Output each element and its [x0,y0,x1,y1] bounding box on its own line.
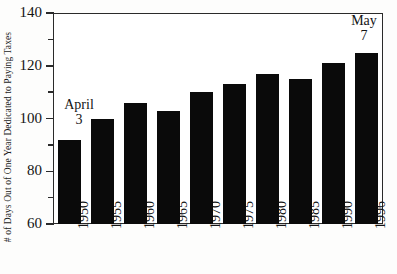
y-tick-minor [48,39,54,40]
y-tick-major [46,12,54,14]
bar-1960 [124,103,146,224]
y-tick-major [46,118,54,120]
annotation-april-3-line1: April [64,97,94,112]
bar-1970 [190,92,212,224]
y-tick-label: 100 [0,111,42,126]
annotation-may-7-line1: May [351,13,377,28]
annotation-may-7-line2: 7 [361,28,368,43]
bar-chart: # of Days Out of One Year Dedicated to P… [0,0,397,274]
y-tick-label: 80 [0,163,42,178]
y-tick-minor [48,197,54,198]
y-tick-major [46,223,54,225]
y-tick-label: 120 [0,58,42,73]
annotation-may-7: May 7 [342,14,386,43]
bar-1965 [157,111,179,224]
y-tick-major [46,171,54,173]
bar-1955 [91,119,113,225]
y-axis-title: # of Days Out of One Year Dedicated to P… [0,0,16,274]
y-tick-minor [48,91,54,92]
y-tick-major [46,65,54,67]
bar-1990 [322,63,344,224]
bar-1950 [58,140,80,224]
annotation-april-3: April 3 [56,98,102,127]
y-tick-label: 140 [0,5,42,20]
bar-1985 [289,79,311,224]
y-tick-minor [48,144,54,145]
bar-1975 [223,84,245,224]
annotation-april-3-line2: 3 [76,112,83,127]
y-tick-label: 60 [0,216,42,231]
bar-1980 [256,74,278,224]
bar-1996 [355,53,377,224]
